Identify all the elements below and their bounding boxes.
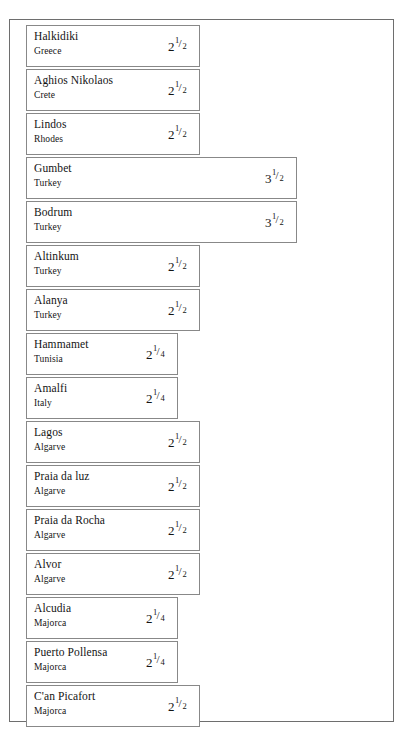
bar-label-group: Praia da RochaAlgarve xyxy=(34,514,105,541)
bar-label-group: Puerto PollensaMajorca xyxy=(34,646,107,673)
bar-row[interactable]: Praia da RochaAlgarve21/2 xyxy=(26,509,200,551)
bar-value-denominator: 2 xyxy=(183,85,187,95)
bar-row[interactable]: HammametTunisia21/4 xyxy=(26,333,178,375)
bar-region-name: Majorca xyxy=(34,618,71,629)
bar-row[interactable]: AltinkumTurkey21/2 xyxy=(26,245,200,287)
bar-value-fraction: 1/2 xyxy=(175,478,188,491)
bar-value-slash: / xyxy=(179,37,182,49)
bar-value-fraction: 1/2 xyxy=(272,214,285,227)
bar-label-group: AlcudiaMajorca xyxy=(34,602,71,629)
bar-value-label: 21/4 xyxy=(146,346,166,363)
bar-value-label: 21/2 xyxy=(168,258,188,275)
bar-chart-plot-area: HalkidikiGreece21/2Aghios NikolaosCrete2… xyxy=(10,20,393,721)
bar-row[interactable]: AmalfiItaly21/4 xyxy=(26,377,178,419)
bar-value-denominator: 4 xyxy=(161,393,165,403)
bar-value-slash: / xyxy=(179,81,182,93)
bar-destination-name: Altinkum xyxy=(34,250,79,264)
bar-row[interactable]: AlvorAlgarve21/2 xyxy=(26,553,200,595)
bar-value-slash: / xyxy=(157,345,160,357)
bar-row[interactable]: BodrumTurkey31/2 xyxy=(26,201,297,243)
bar-region-name: Turkey xyxy=(34,310,68,321)
bar-value-label: 21/2 xyxy=(168,566,188,583)
bar-value-denominator: 2 xyxy=(280,217,284,227)
bar-destination-name: Halkidiki xyxy=(34,30,78,44)
bar-value-fraction: 1/2 xyxy=(175,38,188,51)
bar-region-name: Majorca xyxy=(34,662,107,673)
bar-value-slash: / xyxy=(179,257,182,269)
bar-row[interactable]: Praia da luzAlgarve21/2 xyxy=(26,465,200,507)
bar-row[interactable]: Aghios NikolaosCrete21/2 xyxy=(26,69,200,111)
bar-value-label: 31/2 xyxy=(265,214,285,231)
bar-value-label: 21/2 xyxy=(168,698,188,715)
bar-destination-name: Alanya xyxy=(34,294,68,308)
bar-value-integer: 2 xyxy=(168,259,175,275)
bar-value-integer: 2 xyxy=(168,303,175,319)
bar-value-label: 21/4 xyxy=(146,654,166,671)
bar-row[interactable]: AlcudiaMajorca21/4 xyxy=(26,597,178,639)
bar-value-integer: 3 xyxy=(265,215,272,231)
bar-label-group: GumbetTurkey xyxy=(34,162,72,189)
bar-destination-name: Puerto Pollensa xyxy=(34,646,107,660)
bar-label-group: AlanyaTurkey xyxy=(34,294,68,321)
bar-value-label: 21/2 xyxy=(168,126,188,143)
bar-label-group: AmalfiItaly xyxy=(34,382,67,409)
bar-label-group: Praia da luzAlgarve xyxy=(34,470,89,497)
bar-value-label: 21/4 xyxy=(146,390,166,407)
bar-row[interactable]: Puerto PollensaMajorca21/4 xyxy=(26,641,178,683)
bar-value-denominator: 4 xyxy=(161,613,165,623)
bar-value-slash: / xyxy=(179,301,182,313)
bar-destination-name: Aghios Nikolaos xyxy=(34,74,113,88)
bar-value-denominator: 2 xyxy=(183,129,187,139)
bar-value-integer: 2 xyxy=(146,611,153,627)
bar-value-label: 21/2 xyxy=(168,478,188,495)
bar-value-denominator: 2 xyxy=(183,261,187,271)
bar-value-fraction: 1/4 xyxy=(153,390,166,403)
bar-value-denominator: 2 xyxy=(183,569,187,579)
bar-value-denominator: 2 xyxy=(183,305,187,315)
bar-row[interactable]: AlanyaTurkey21/2 xyxy=(26,289,200,331)
bar-destination-name: Amalfi xyxy=(34,382,67,396)
bar-destination-name: Alcudia xyxy=(34,602,71,616)
bar-value-slash: / xyxy=(276,213,279,225)
bar-row[interactable]: GumbetTurkey31/2 xyxy=(26,157,297,199)
bar-label-group: AlvorAlgarve xyxy=(34,558,65,585)
bar-region-name: Algarve xyxy=(34,530,105,541)
bar-row[interactable]: C'an PicafortMajorca21/2 xyxy=(26,685,200,727)
bar-destination-name: Bodrum xyxy=(34,206,72,220)
bar-region-name: Majorca xyxy=(34,706,95,717)
bar-value-fraction: 1/2 xyxy=(175,126,188,139)
bar-destination-name: Lindos xyxy=(34,118,67,132)
bar-value-integer: 2 xyxy=(168,699,175,715)
bar-value-fraction: 1/2 xyxy=(175,258,188,271)
bar-value-denominator: 2 xyxy=(183,437,187,447)
bar-value-slash: / xyxy=(276,169,279,181)
bar-value-fraction: 1/4 xyxy=(153,346,166,359)
bar-region-name: Rhodes xyxy=(34,134,67,145)
bar-row[interactable]: LindosRhodes21/2 xyxy=(26,113,200,155)
bar-value-denominator: 2 xyxy=(183,701,187,711)
bar-value-fraction: 1/2 xyxy=(175,566,188,579)
bar-label-group: LindosRhodes xyxy=(34,118,67,145)
bar-value-fraction: 1/2 xyxy=(175,434,188,447)
bar-value-label: 21/2 xyxy=(168,522,188,539)
bar-region-name: Turkey xyxy=(34,266,79,277)
chart-frame: HalkidikiGreece21/2Aghios NikolaosCrete2… xyxy=(9,19,394,722)
bar-label-group: HalkidikiGreece xyxy=(34,30,78,57)
bar-value-integer: 3 xyxy=(265,171,272,187)
bar-value-denominator: 4 xyxy=(161,657,165,667)
bar-value-fraction: 1/2 xyxy=(175,698,188,711)
bar-value-label: 31/2 xyxy=(265,170,285,187)
bar-value-denominator: 2 xyxy=(280,173,284,183)
bar-row[interactable]: HalkidikiGreece21/2 xyxy=(26,25,200,67)
bar-value-slash: / xyxy=(179,697,182,709)
bar-row[interactable]: LagosAlgarve21/2 xyxy=(26,421,200,463)
bar-destination-name: C'an Picafort xyxy=(34,690,95,704)
bar-value-slash: / xyxy=(157,389,160,401)
bar-value-fraction: 1/2 xyxy=(175,302,188,315)
bar-value-denominator: 2 xyxy=(183,481,187,491)
bar-destination-name: Lagos xyxy=(34,426,65,440)
bar-value-fraction: 1/2 xyxy=(175,522,188,535)
bar-value-integer: 2 xyxy=(168,127,175,143)
bar-value-fraction: 1/4 xyxy=(153,654,166,667)
bar-region-name: Crete xyxy=(34,90,113,101)
